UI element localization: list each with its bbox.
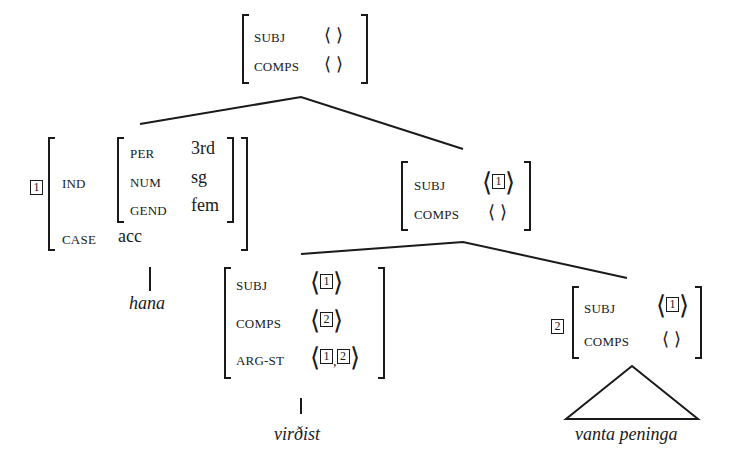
comp-right-bracket <box>695 287 701 358</box>
verb-comps-value: ⟨2⟩ <box>310 308 343 334</box>
comp-subj-label: SUBJ <box>584 301 615 317</box>
mid-left-bracket <box>402 162 408 230</box>
top-subj-label: SUBJ <box>254 30 285 46</box>
top-left-bracket <box>243 15 249 83</box>
top-subj-value: ⟨ ⟩ <box>324 26 343 44</box>
gend-value: fem <box>191 195 219 216</box>
phrase-vanta-peninga: vanta peninga <box>575 424 677 445</box>
comp-tag: 2 <box>551 316 564 334</box>
top-branches <box>140 97 463 149</box>
word-hana: hana <box>129 293 165 314</box>
word-virdist: virðist <box>274 424 320 445</box>
case-label: CASE <box>62 232 96 248</box>
num-label: NUM <box>130 175 161 191</box>
ind-label: IND <box>62 176 86 192</box>
mid-comps-label: COMPS <box>414 207 459 223</box>
verb-argst-value: ⟨1,2⟩ <box>310 345 360 371</box>
top-comps-label: COMPS <box>254 59 299 75</box>
verb-argst-label: ARG-ST <box>236 353 284 369</box>
per-value: 3rd <box>191 138 215 159</box>
verb-left-bracket <box>225 268 231 378</box>
left-outer-left-bracket <box>49 138 55 250</box>
verb-right-bracket <box>378 268 384 378</box>
top-right-bracket <box>361 15 367 83</box>
left-outer-right-bracket <box>241 138 247 250</box>
tree-lines <box>0 0 729 465</box>
verb-subj-value: ⟨1⟩ <box>310 270 343 296</box>
lower-branches <box>301 242 627 278</box>
verb-comps-label: COMPS <box>236 316 281 332</box>
gend-label: GEND <box>130 203 167 219</box>
mid-subj-value: ⟨1⟩ <box>482 170 515 196</box>
mid-right-bracket <box>524 162 530 230</box>
comp-comps-label: COMPS <box>584 334 629 350</box>
left-tag: 1 <box>30 177 43 195</box>
verb-subj-label: SUBJ <box>236 278 267 294</box>
mid-comps-value: ⟨ ⟩ <box>488 203 507 221</box>
comp-left-bracket <box>573 287 579 358</box>
left-inner-left-bracket <box>118 138 124 222</box>
comp-comps-value: ⟨ ⟩ <box>662 330 681 348</box>
top-comps-value: ⟨ ⟩ <box>324 55 343 73</box>
comp-subj-value: ⟨1⟩ <box>656 293 689 319</box>
per-label: PER <box>130 146 154 162</box>
left-inner-right-bracket <box>227 138 233 222</box>
mid-subj-label: SUBJ <box>414 178 445 194</box>
case-value: acc <box>118 226 142 247</box>
phrase-triangle <box>566 366 698 419</box>
num-value: sg <box>191 167 207 188</box>
